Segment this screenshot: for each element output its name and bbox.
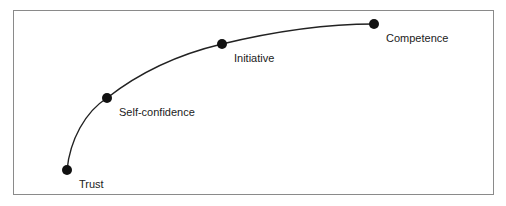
stage-marker bbox=[62, 165, 72, 175]
stage-label: Self-confidence bbox=[119, 106, 195, 118]
stage-label: Initiative bbox=[234, 52, 274, 64]
stage-marker bbox=[102, 93, 112, 103]
stage-label: Trust bbox=[79, 178, 104, 190]
stage-marker bbox=[217, 39, 227, 49]
progression-diagram: TrustSelf-confidenceInitiativeCompetence bbox=[0, 0, 506, 206]
stage-label: Competence bbox=[386, 32, 448, 44]
stage-marker bbox=[369, 19, 379, 29]
